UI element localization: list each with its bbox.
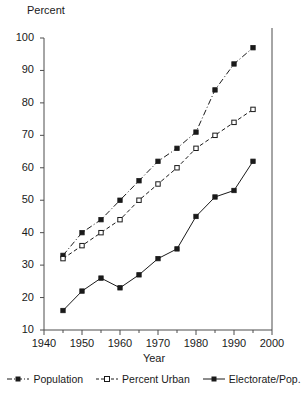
y-tick-label: 40 [8,226,34,238]
data-point-marker [80,243,84,247]
legend-label-population: Population [33,374,83,385]
data-point-marker [251,46,255,50]
series-percent-urban [61,107,255,261]
x-tick-label: 1980 [176,337,216,349]
data-point-marker [80,230,84,234]
data-point-marker [213,133,217,137]
data-point-marker [99,230,103,234]
data-point-marker [232,188,236,192]
series-population [61,46,255,258]
data-point-marker [194,214,198,218]
data-point-marker [175,247,179,251]
legend-key-percent-urban-icon [96,374,118,384]
data-point-marker [118,286,122,290]
data-point-marker [156,256,160,260]
data-point-marker [213,88,217,92]
chart-figure: Percent Year Population Percent Urban El… [0,0,308,405]
y-tick-label: 10 [8,323,34,335]
data-point-marker [137,198,141,202]
y-tick-label: 90 [8,63,34,75]
y-tick-label: 70 [8,128,34,140]
data-point-marker [175,166,179,170]
y-tick-label: 80 [8,96,34,108]
x-tick-label: 1950 [62,337,102,349]
x-tick-label: 1940 [24,337,64,349]
data-point-marker [137,179,141,183]
y-tick-label: 100 [8,31,34,43]
data-point-marker [80,289,84,293]
data-point-marker [99,276,103,280]
data-point-marker [194,146,198,150]
data-point-marker [118,217,122,221]
data-point-marker [194,130,198,134]
data-point-marker [213,195,217,199]
data-point-marker [251,107,255,111]
data-point-marker [118,198,122,202]
data-point-marker [156,182,160,186]
legend-item-electorate-pop[interactable]: Electorate/Pop. [203,374,301,385]
data-point-marker [61,256,65,260]
data-point-marker [232,62,236,66]
legend-item-percent-urban[interactable]: Percent Urban [96,374,190,385]
y-tick-label: 30 [8,258,34,270]
legend-label-percent-urban: Percent Urban [122,374,190,385]
y-tick-label: 60 [8,161,34,173]
x-tick-label: 1960 [100,337,140,349]
data-point-marker [251,159,255,163]
y-tick-label: 50 [8,193,34,205]
x-tick-label: 1990 [214,337,254,349]
data-point-marker [175,146,179,150]
data-point-marker [137,273,141,277]
data-point-marker [99,217,103,221]
chart-legend: Population Percent Urban Electorate/Pop. [0,374,308,385]
x-tick-label: 2000 [252,337,292,349]
data-point-marker [232,120,236,124]
legend-key-population-icon [7,374,29,384]
data-point-marker [156,159,160,163]
series-line [63,48,253,256]
y-tick-label: 20 [8,291,34,303]
x-tick-label: 1970 [138,337,178,349]
data-point-marker [61,308,65,312]
legend-key-electorate-pop-icon [203,374,225,384]
legend-label-electorate-pop: Electorate/Pop. [229,374,301,385]
legend-item-population[interactable]: Population [7,374,83,385]
